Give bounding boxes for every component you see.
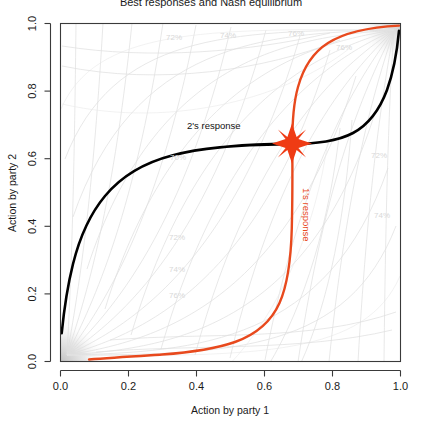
contour-label: 72% <box>166 33 182 42</box>
x-tick-label: 0.6 <box>257 380 272 392</box>
y-axis-title: Action by party 2 <box>6 154 18 232</box>
chart-figure: Best responses and Nash equilibrium <box>0 0 423 425</box>
x-axis-title: Action by party 1 <box>191 404 269 416</box>
contour-label: 72% <box>371 151 387 160</box>
y-tick-label: 0.0 <box>26 354 38 369</box>
x-tick-label: 0.4 <box>189 380 204 392</box>
plot-frame <box>61 24 401 362</box>
x-tick-label: 1.0 <box>393 380 408 392</box>
x-tick-label: 0.8 <box>325 380 340 392</box>
y-tick-label: 0.6 <box>26 151 38 166</box>
y-tick-label: 0.8 <box>26 83 38 98</box>
contour-field <box>60 23 401 366</box>
chart-svg: Best responses and Nash equilibrium <box>0 0 423 425</box>
x-axis: 0.0 0.2 0.4 0.6 0.8 1.0 Action by party … <box>53 371 408 417</box>
chart-title: Best responses and Nash equilibrium <box>120 0 302 8</box>
y-axis: 0.0 0.2 0.4 0.6 0.8 1.0 Action by party … <box>6 16 51 369</box>
contour-label: 72% <box>169 233 185 242</box>
y-tick-label: 1.0 <box>26 16 38 31</box>
y-tick-label: 0.2 <box>26 286 38 301</box>
contour-label: 70% <box>170 153 186 162</box>
contour-fan-lower-left <box>67 23 400 355</box>
nash-equilibrium-marker <box>272 124 312 164</box>
contour-arcs <box>62 33 396 366</box>
contour-label: 76% <box>288 29 304 38</box>
y-tick-label: 0.4 <box>26 219 38 234</box>
contour-origin-smudge <box>60 320 106 362</box>
contour-label: 74% <box>374 211 390 220</box>
contour-label: 76% <box>336 43 352 52</box>
x-tick-label: 0.2 <box>121 380 136 392</box>
contour-labels: 72% 74% 76% 70% 72% 74% 76% 72% 74% 76% <box>166 29 390 300</box>
x-tick-label: 0.0 <box>53 380 68 392</box>
annotation-1s-response: 1's response <box>301 188 312 242</box>
contour-label: 74% <box>220 31 236 40</box>
annotation-2s-response: 2's response <box>187 120 241 131</box>
contour-label: 74% <box>169 265 185 274</box>
contour-label: 76% <box>169 291 185 300</box>
